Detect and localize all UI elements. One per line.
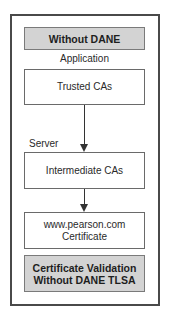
footer-line-2: Without DANE TLSA bbox=[34, 274, 136, 286]
header-box: Without DANE bbox=[24, 27, 145, 50]
trusted-cas-label: Trusted CAs bbox=[57, 81, 112, 93]
certificate-label: Certificate bbox=[62, 231, 107, 243]
certificate-domain: www.pearson.com bbox=[44, 219, 126, 231]
arrow-intermediate-to-certificate bbox=[84, 189, 85, 205]
arrow-trusted-to-intermediate bbox=[84, 105, 85, 144]
intermediate-cas-box: Intermediate CAs bbox=[24, 152, 145, 189]
header-title: Without DANE bbox=[49, 33, 121, 45]
footer-line-1: Certificate Validation bbox=[33, 262, 137, 274]
footer-box: Certificate Validation Without DANE TLSA bbox=[24, 255, 145, 292]
arrow-head-icon bbox=[80, 144, 88, 152]
server-label: Server bbox=[29, 138, 58, 150]
trusted-cas-box: Trusted CAs bbox=[24, 69, 145, 105]
arrow-head-icon bbox=[80, 204, 88, 212]
application-label: Application bbox=[0, 53, 169, 65]
intermediate-cas-label: Intermediate CAs bbox=[46, 165, 123, 177]
certificate-box: www.pearson.com Certificate bbox=[24, 212, 145, 249]
